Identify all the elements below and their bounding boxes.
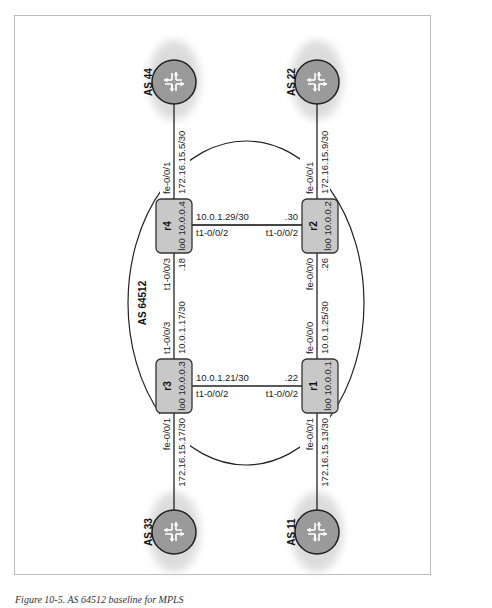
r3-as33-interface: fe-0/0/1 [161,418,172,450]
as44-label: AS 44 [143,68,154,96]
r2-r1-subnet: 10.0.1.25/30 [319,301,330,354]
router-r4-loopback: lo0 10.0.0.4 [176,201,187,251]
r3-as33-subnet: 172.16.15.17/30 [176,418,187,487]
as44-router-node[interactable] [152,60,196,104]
as11-label: AS 11 [286,518,297,546]
router-r2-loopback: lo0 10.0.0.2 [322,201,333,251]
r4-r3-subnet: 10.0.1.17/30 [176,301,187,354]
r2-as22-subnet: 172.16.15.9/30 [319,131,330,194]
router-r1[interactable]: r1 lo0 10.0.0.1 [302,359,338,413]
as33-router-node[interactable] [152,510,196,554]
as22-label: AS 22 [286,68,297,96]
router-r2[interactable]: r2 lo0 10.0.0.2 [302,199,338,253]
r4-r3-r3-interface: t1-0/0/3 [161,322,172,354]
router-r1-name: r1 [308,381,319,391]
r4-r2-r4-interface: t1-0/0/2 [196,227,228,238]
router-r3-name: r3 [162,381,173,391]
router-r1-loopback: lo0 10.0.0.1 [322,361,333,411]
figure-caption: Figure 10-5. AS 64512 baseline for MPLS [15,594,184,605]
router-r2-name: r2 [308,221,319,231]
router-r3[interactable]: r3 lo0 10.0.0.3 [156,359,192,413]
as33-label: AS 33 [143,518,154,546]
r4-as44-subnet: 172.16.15.5/30 [176,131,187,194]
router-r4[interactable]: r4 lo0 10.0.0.4 [156,199,192,253]
r4-r2-subnet: 10.0.1.29/30 [196,211,249,222]
r2-r1-r2-host: .26 [319,258,330,271]
r4-r3-r4-host: .18 [176,258,187,271]
network-diagram: AS 44 AS 22 AS 33 AS 11 r4 lo0 10.0.0.4 … [0,0,492,608]
r3-r1-r1-interface: t1-0/0/2 [266,388,298,399]
as-domain-label: AS 64512 [137,280,148,325]
r2-r1-r2-interface: fe-0/0/0 [304,258,315,290]
r4-r3-r4-interface: t1-0/0/3 [161,258,172,290]
router-r3-loopback: lo0 10.0.0.3 [176,361,187,411]
r4-as44-interface: fe-0/0/1 [161,162,172,194]
r4-r2-r2-host: .30 [285,211,298,222]
r3-r1-r1-host: .22 [285,372,298,383]
r2-as22-interface: fe-0/0/1 [304,162,315,194]
as11-router-node[interactable] [295,510,339,554]
r1-as11-interface: fe-0/0/1 [304,418,315,450]
router-r4-name: r4 [162,221,173,231]
r1-as11-subnet: 172.16.15.13/30 [319,418,330,487]
r3-r1-r3-interface: t1-0/0/2 [196,388,228,399]
as22-router-node[interactable] [295,60,339,104]
r3-r1-subnet: 10.0.1.21/30 [196,372,249,383]
r2-r1-r1-interface: fe-0/0/0 [304,322,315,354]
r4-r2-r2-interface: t1-0/0/2 [266,227,298,238]
